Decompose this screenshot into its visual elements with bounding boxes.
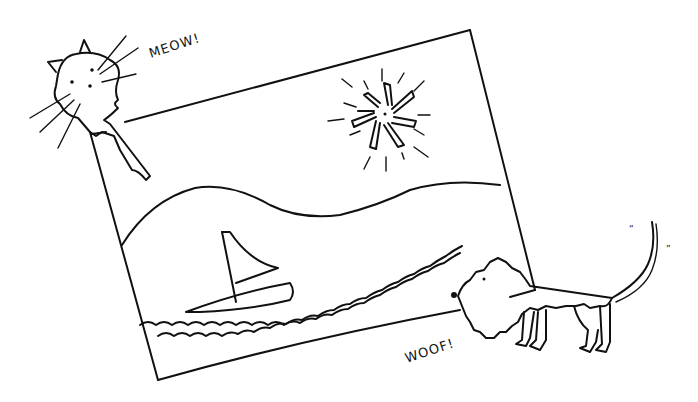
- illustration-canvas: MEOW! WOOF! “ ”: [0, 0, 698, 402]
- tail-wag-mark-right: ”: [666, 244, 671, 254]
- hills: [122, 182, 500, 245]
- sailboat: [186, 232, 293, 312]
- dog: [451, 222, 657, 352]
- sun-icon: [328, 69, 430, 171]
- line-drawing: [0, 0, 698, 402]
- picture-frame: [90, 30, 535, 380]
- tail-wag-mark-left: “: [629, 224, 634, 234]
- cat: [30, 36, 150, 180]
- waves: [140, 246, 462, 336]
